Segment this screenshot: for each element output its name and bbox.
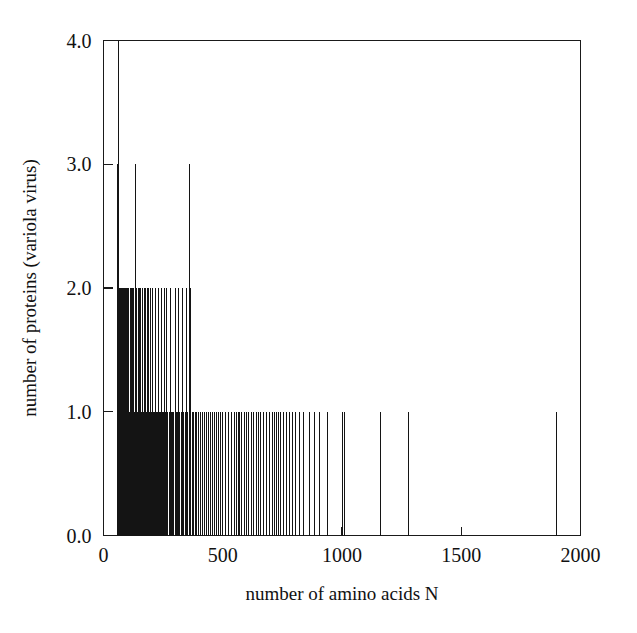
figure-container: 0500100015002000 0.01.02.03.04.0 number … <box>0 0 637 633</box>
y-axis-tick-labels: 0.01.02.03.04.0 <box>67 30 92 547</box>
y-axis-title: number of proteins (variola virus) <box>19 159 41 416</box>
x-tick-label-0: 0 <box>99 544 109 566</box>
spike-series <box>118 41 557 536</box>
x-tick-label-500: 500 <box>208 544 238 566</box>
x-tick-label-2000: 2000 <box>561 544 601 566</box>
y-tick-label-2.0: 2.0 <box>67 277 92 299</box>
y-tick-label-4.0: 4.0 <box>67 30 92 52</box>
x-tick-label-1500: 1500 <box>441 544 481 566</box>
x-axis-tick-labels: 0500100015002000 <box>99 544 601 566</box>
y-axis-ticks <box>104 41 113 536</box>
y-tick-label-0.0: 0.0 <box>67 525 92 547</box>
x-tick-label-1000: 1000 <box>322 544 362 566</box>
y-tick-label-1.0: 1.0 <box>67 401 92 423</box>
y-tick-label-3.0: 3.0 <box>67 153 92 175</box>
spike-chart: 0500100015002000 0.01.02.03.04.0 number … <box>0 0 637 633</box>
x-axis-title: number of amino acids N <box>245 583 438 604</box>
